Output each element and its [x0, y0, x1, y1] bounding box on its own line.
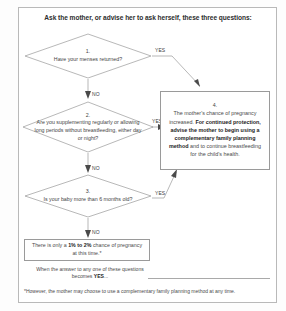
- decision-node-3[interactable]: 3. Is your baby more than 6 months old?: [24, 174, 152, 218]
- flowchart-page: Ask the mother, or advise her to ask her…: [0, 0, 286, 311]
- decision-3-label: Is your baby more than 6 months old?: [44, 196, 133, 204]
- edge-label-q3-no: NO: [92, 229, 100, 235]
- edge-label-q1-no: NO: [92, 91, 100, 97]
- decision-2-number: 2.: [86, 112, 90, 120]
- edge-q2-no: [84, 153, 100, 175]
- decision-1-number: 1.: [86, 48, 90, 56]
- result-text-part2: and to continue breastfeeding for the ch…: [188, 143, 261, 157]
- decision-2-text: 2. Are you supplementing regularly or al…: [22, 101, 154, 153]
- decision-3-text: 3. Is your baby more than 6 months old?: [24, 174, 152, 218]
- decision-3-number: 3.: [86, 188, 90, 196]
- bottom-note-part2: ...: [104, 273, 108, 279]
- decision-node-2[interactable]: 2. Are you supplementing regularly or al…: [22, 101, 154, 153]
- result-box-number: 4.: [213, 102, 217, 108]
- low-risk-box[interactable]: There is only a 1% to 2% chance of pregn…: [24, 239, 150, 261]
- low-risk-part1: There is only a: [32, 242, 68, 248]
- bottom-note-bold: YES: [94, 273, 104, 279]
- decision-1-label: Have your menses returned?: [54, 56, 122, 64]
- decision-node-1[interactable]: 1. Have your menses returned?: [24, 33, 152, 79]
- page-title: Ask the mother, or advise her to ask her…: [24, 14, 272, 22]
- decision-1-text: 1. Have your menses returned?: [24, 33, 152, 79]
- footnote-divider: [148, 278, 270, 279]
- edge-label-q1-yes: YES: [155, 47, 165, 53]
- result-box-text: The mother's chance of pregnancy increas…: [166, 109, 264, 158]
- bottom-note-part1: When the answer to any one of these ques…: [36, 266, 144, 279]
- low-risk-bold: 1% to 2%: [68, 242, 91, 248]
- edge-label-q3-yes: YES: [155, 190, 165, 196]
- edge-label-q2-no: NO: [92, 165, 100, 171]
- result-box[interactable]: 4. The mother's chance of pregnancy incr…: [160, 91, 270, 170]
- edge-q1-no: [84, 79, 100, 101]
- decision-2-label: Are you supplementing regularly or allow…: [33, 119, 143, 142]
- bottom-note: When the answer to any one of these ques…: [30, 266, 150, 281]
- footnote: *However, the mother may choose to use a…: [24, 288, 270, 295]
- low-risk-text: There is only a 1% to 2% chance of pregn…: [29, 242, 145, 258]
